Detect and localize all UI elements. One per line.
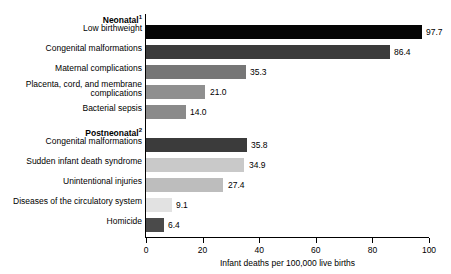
table-row: Maternal complications 35.3 (0, 64, 451, 80)
row-label: Congenital malformations (0, 137, 142, 147)
x-axis-tick-label: 20 (198, 245, 207, 255)
bar[interactable] (146, 138, 247, 152)
bar[interactable] (146, 45, 390, 59)
bar[interactable] (146, 65, 246, 79)
x-axis-tick-label: 80 (368, 245, 377, 255)
bar-value: 34.9 (249, 160, 266, 170)
row-label: Placenta, cord, and membrane complicatio… (0, 80, 142, 99)
row-label: Bacterial sepsis (0, 104, 142, 114)
bar-value: 6.4 (168, 220, 180, 230)
bar-value: 9.1 (176, 200, 188, 210)
row-label: Maternal complications (0, 64, 142, 74)
infant-mortality-bar-chart: 020406080100 Infant deaths per 100,000 l… (0, 0, 451, 274)
row-label: Congenital malformations (0, 44, 142, 54)
x-axis-tick-label: 40 (254, 245, 263, 255)
group-heading-neonatal-footnote: 1 (139, 14, 142, 20)
group-heading-postneonatal-footnote: 2 (139, 127, 142, 133)
table-row: Congenital malformations 86.4 (0, 44, 451, 60)
x-axis-tick (146, 238, 147, 243)
row-label: Homicide (0, 217, 142, 227)
table-row: Congenital malformations 35.8 (0, 137, 451, 153)
table-row: Low birthweight 97.7 (0, 24, 451, 40)
bar-value: 35.8 (251, 140, 268, 150)
bar-value: 21.0 (210, 87, 227, 97)
table-row: Diseases of the circulatory system 9.1 (0, 197, 451, 213)
table-row: Homicide 6.4 (0, 217, 451, 233)
row-label: Unintentional injuries (0, 177, 142, 187)
bar[interactable] (146, 85, 205, 99)
bar-value: 27.4 (228, 180, 245, 190)
x-axis-tick-label: 60 (311, 245, 320, 255)
x-axis-tick (316, 238, 317, 243)
table-row: Placenta, cord, and membrane complicatio… (0, 84, 451, 100)
x-axis-tick (429, 238, 430, 243)
bar-value: 35.3 (250, 67, 267, 77)
bar[interactable] (146, 198, 172, 212)
row-label: Diseases of the circulatory system (0, 197, 142, 207)
bar[interactable] (146, 158, 244, 172)
bar[interactable] (146, 105, 186, 119)
table-row: Sudden infant death syndrome 34.9 (0, 157, 451, 173)
bar[interactable] (146, 25, 422, 39)
x-axis-tick (259, 238, 260, 243)
bar[interactable] (146, 178, 223, 192)
x-axis-tick (203, 238, 204, 243)
row-label: Sudden infant death syndrome (0, 157, 142, 167)
x-axis-tick (372, 238, 373, 243)
bar[interactable] (146, 218, 164, 232)
x-axis-title: Infant deaths per 100,000 live births (146, 258, 429, 268)
x-axis-line (145, 237, 429, 238)
bar-value: 14.0 (190, 107, 207, 117)
bar-value: 97.7 (426, 27, 443, 37)
x-axis-tick-label: 0 (144, 245, 149, 255)
x-axis-tick-label: 100 (422, 245, 436, 255)
table-row: Bacterial sepsis 14.0 (0, 104, 451, 120)
table-row: Unintentional injuries 27.4 (0, 177, 451, 193)
bar-value: 86.4 (394, 47, 411, 57)
row-label: Low birthweight (0, 24, 142, 34)
